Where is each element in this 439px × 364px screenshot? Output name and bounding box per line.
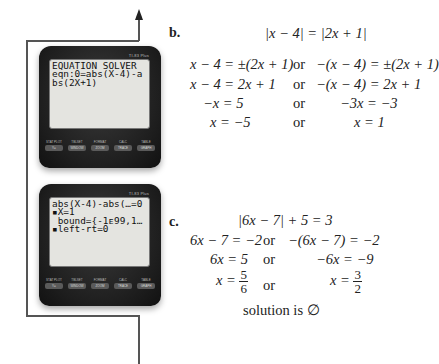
key-label: Y= (45, 283, 63, 289)
connector-top-horizontal (26, 40, 139, 42)
part-b-row2-or: or (293, 76, 305, 93)
key-label: ZOOM (91, 145, 109, 151)
key-label: TRACE (114, 283, 132, 289)
part-b-row4-or: or (293, 114, 305, 131)
fraction-left-var: x = (216, 272, 236, 288)
part-b-row3-left: −x = 5 (203, 95, 244, 112)
key-y-equals[interactable]: STAT PLOTY= (45, 140, 63, 158)
part-b-row1-left: x − 4 = ±(2x + 1) (190, 56, 293, 73)
key-window[interactable]: TBLSETWINDOW (68, 140, 86, 158)
key-window[interactable]: TBLSETWINDOW (68, 278, 86, 296)
part-c-row2-left: 6x = 5 (210, 251, 248, 268)
part-c-conclusion: solution is ∅ (243, 302, 320, 319)
screen-line: ▪left-rt=0 (52, 225, 147, 233)
calculator-brand: TI-83 Plus (129, 191, 149, 196)
part-c-label: c. (169, 214, 179, 230)
connector-left-vertical (26, 40, 28, 316)
key-label: TRACE (114, 145, 132, 151)
fraction-denominator: 2 (354, 282, 361, 295)
key-label: ZOOM (91, 283, 109, 289)
function-keys: STAT PLOTY= TBLSETWINDOW FORMATZOOM CALC… (45, 140, 155, 158)
part-b-row1-right: −(x − 4) = ±(2x + 1) (316, 56, 439, 73)
part-b-row4-right: x = 1 (354, 114, 385, 131)
key-zoom[interactable]: FORMATZOOM (91, 140, 109, 158)
part-c-row1-or: or (263, 232, 275, 249)
part-c-row2-right: −6x = −9 (316, 251, 374, 268)
calculator-brand: TI-83 Plus (129, 53, 149, 58)
calculator-equation-solver: TI-83 Plus EQUATION SOLVEReqn:0=abs(X-4)… (39, 46, 161, 168)
part-b-row3-or: or (293, 95, 305, 112)
key-label: Y= (45, 145, 63, 151)
key-label: WINDOW (68, 145, 86, 151)
part-c-fraction-right: x = 32 (330, 268, 362, 295)
arrow-up-icon (135, 9, 143, 20)
key-label: GRAPH (137, 145, 155, 151)
key-trace[interactable]: CALCTRACE (114, 140, 132, 158)
key-zoom[interactable]: FORMATZOOM (91, 278, 109, 296)
part-b-row4-left: x = −5 (210, 114, 251, 131)
key-label: GRAPH (137, 283, 155, 289)
part-c-equation: |6x − 7| + 5 = 3 (238, 212, 333, 229)
part-c-row2-or: or (263, 251, 275, 268)
part-b-row2-right: −(x − 4) = 2x + 1 (316, 76, 421, 93)
part-b-row2-left: x − 4 = 2x + 1 (190, 76, 276, 93)
key-trace[interactable]: CALCTRACE (114, 278, 132, 296)
fraction-numerator: 5 (239, 268, 248, 282)
function-keys: STAT PLOTY= TBLSETWINDOW FORMATZOOM CALC… (45, 278, 155, 296)
key-graph[interactable]: TABLEGRAPH (137, 278, 155, 296)
part-c-fraction-or: or (263, 277, 275, 294)
screen-line: bs(2X+1) (52, 79, 147, 87)
fraction-right-var: x = (330, 272, 350, 288)
fraction-numerator: 3 (353, 268, 362, 282)
key-graph[interactable]: TABLEGRAPH (137, 140, 155, 158)
part-c-row1-right: −(6x − 7) = −2 (288, 232, 379, 249)
part-c-fraction-left: x = 56 (216, 268, 248, 295)
part-b-row1-or: or (293, 56, 305, 73)
connector-bottom-vertical (138, 315, 140, 364)
calculator-solution: TI-83 Plus abs(X-4)-abs(…=0▪X=1 bound={-… (39, 184, 161, 306)
part-b-equation: |x − 4| = |2x + 1| (265, 25, 367, 42)
connector-arrow-shaft (138, 18, 140, 41)
key-y-equals[interactable]: STAT PLOTY= (45, 278, 63, 296)
part-c-row1-left: 6x − 7 = −2 (190, 232, 262, 249)
part-b-label: b. (169, 25, 180, 41)
fraction-right: 32 (353, 268, 362, 295)
fraction-denominator: 6 (240, 282, 247, 295)
connector-bottom-horizontal (26, 315, 140, 317)
part-b-row3-right: −3x = −3 (340, 95, 398, 112)
fraction-left: 56 (239, 268, 248, 295)
calculator-screen: EQUATION SOLVEReqn:0=abs(X-4)-abs(2X+1) (49, 59, 150, 129)
key-label: WINDOW (68, 283, 86, 289)
calculator-screen: abs(X-4)-abs(…=0▪X=1 bound={-1ᴇ99,1…▪lef… (49, 197, 150, 267)
